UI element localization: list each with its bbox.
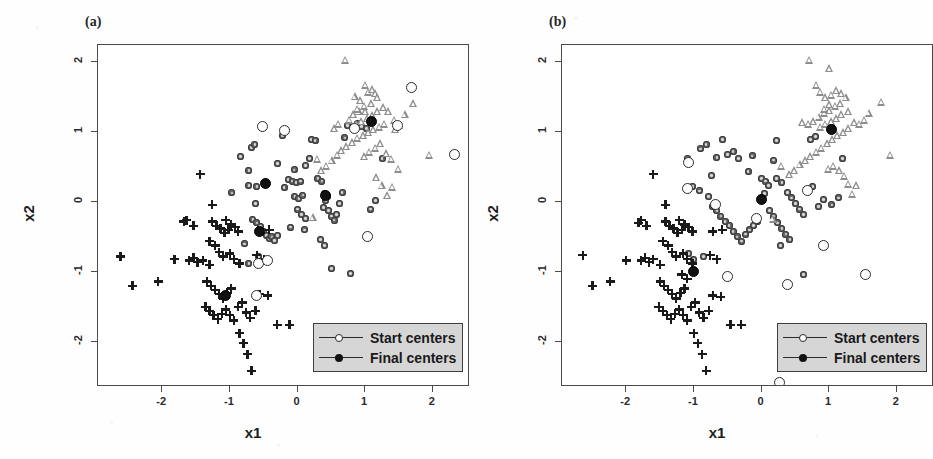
final-centers-icon xyxy=(319,351,363,364)
data-point-circle xyxy=(299,192,306,199)
final-center-marker xyxy=(366,116,377,127)
data-point-plus xyxy=(578,251,587,260)
x-tick-label: -2 xyxy=(610,395,640,407)
x-tick-label: -1 xyxy=(678,395,708,407)
data-point-circle xyxy=(301,226,308,233)
x-tick-mark xyxy=(297,386,298,392)
start-centers-icon xyxy=(783,331,827,344)
data-point-plus xyxy=(239,339,248,348)
panel-b-label: (b) xyxy=(549,14,566,30)
panel-b-y-axis-label: x2 xyxy=(484,184,501,244)
data-point-plus xyxy=(265,225,274,234)
data-point-plus xyxy=(189,221,198,230)
data-point-circle xyxy=(339,189,346,196)
y-tick-label: -2 xyxy=(72,328,84,352)
y-tick-mark xyxy=(555,341,561,342)
start-center-marker xyxy=(774,377,785,385)
data-point-circle xyxy=(815,203,822,210)
data-point-circle xyxy=(347,270,354,277)
start-centers-icon xyxy=(319,331,363,344)
data-point-triangle xyxy=(385,107,393,115)
panel-b-legend: Start centers Final centers xyxy=(777,323,927,372)
x-tick-mark xyxy=(364,386,365,392)
data-point-circle xyxy=(274,160,281,167)
start-center-marker xyxy=(782,279,793,290)
data-point-plus xyxy=(128,281,137,290)
start-center-marker xyxy=(722,271,733,282)
legend-row-start-centers: Start centers xyxy=(319,329,455,346)
data-point-plus xyxy=(661,200,670,209)
data-point-plus xyxy=(693,339,702,348)
start-center-marker xyxy=(279,125,290,136)
panel-a-label: (a) xyxy=(85,14,101,30)
data-point-plus xyxy=(656,260,665,269)
x-tick-mark xyxy=(161,386,162,392)
data-point-circle xyxy=(778,179,785,186)
data-point-triangle xyxy=(362,107,370,115)
start-center-marker xyxy=(449,149,460,160)
y-tick-mark xyxy=(555,271,561,272)
data-point-triangle xyxy=(785,170,793,178)
data-point-circle xyxy=(245,182,252,189)
data-point-plus xyxy=(606,277,615,286)
final-center-marker xyxy=(320,190,331,201)
data-point-circle xyxy=(738,238,745,245)
data-point-plus xyxy=(205,260,214,269)
data-point-circle xyxy=(245,167,252,174)
data-point-plus xyxy=(680,284,689,293)
data-point-plus xyxy=(263,291,272,300)
legend-label-start-centers: Start centers xyxy=(370,330,456,346)
final-center-marker xyxy=(220,290,231,301)
start-center-marker xyxy=(682,183,693,194)
data-point-plus xyxy=(704,306,713,315)
panel-a-legend: Start centers Final centers xyxy=(313,323,463,372)
final-center-marker xyxy=(260,178,271,189)
start-center-marker xyxy=(251,290,262,301)
y-tick-mark xyxy=(555,131,561,132)
data-point-circle xyxy=(291,166,298,173)
data-point-circle xyxy=(835,194,842,201)
panel-b: (b) x2 x1 -2-1012-2-1012 Start centers F… xyxy=(464,0,929,459)
data-point-circle xyxy=(719,136,726,143)
data-point-plus xyxy=(154,277,163,286)
x-tick-mark xyxy=(828,386,829,392)
data-point-plus xyxy=(718,225,727,234)
data-point-circle xyxy=(839,155,846,162)
data-point-circle xyxy=(251,141,258,148)
data-point-circle xyxy=(800,271,807,278)
data-point-circle xyxy=(237,153,244,160)
data-point-plus xyxy=(698,350,707,359)
panel-a-x-axis-label: x1 xyxy=(233,424,273,441)
x-tick-mark xyxy=(693,386,694,392)
data-point-triangle xyxy=(394,165,402,173)
final-center-marker xyxy=(756,194,767,205)
data-point-circle xyxy=(773,137,780,144)
start-center-marker xyxy=(802,185,813,196)
data-point-triangle xyxy=(335,120,343,128)
x-tick-mark xyxy=(229,386,230,392)
data-point-triangle xyxy=(887,151,895,159)
x-tick-label: 2 xyxy=(881,395,911,407)
y-tick-mark xyxy=(91,271,97,272)
data-point-triangle xyxy=(845,107,853,115)
data-point-triangle xyxy=(373,173,381,181)
final-centers-icon xyxy=(783,351,827,364)
data-point-plus xyxy=(247,366,256,375)
data-point-plus xyxy=(689,329,698,338)
data-point-circle xyxy=(252,200,259,207)
data-point-triangle xyxy=(378,181,386,189)
data-point-plus xyxy=(737,320,746,329)
panel-a: (a) x2 x1 -2-1012-2-1012 Start centers F… xyxy=(0,0,465,459)
data-point-circle xyxy=(765,182,772,189)
data-point-triangle xyxy=(826,64,834,72)
data-point-plus xyxy=(691,298,700,307)
x-tick-mark xyxy=(625,386,626,392)
data-point-triangle xyxy=(388,155,396,163)
data-point-plus xyxy=(170,255,179,264)
y-tick-label: 1 xyxy=(536,118,548,142)
data-point-circle xyxy=(820,196,827,203)
data-point-triangle xyxy=(401,110,409,118)
data-point-circle xyxy=(777,242,784,249)
data-point-circle xyxy=(828,201,835,208)
